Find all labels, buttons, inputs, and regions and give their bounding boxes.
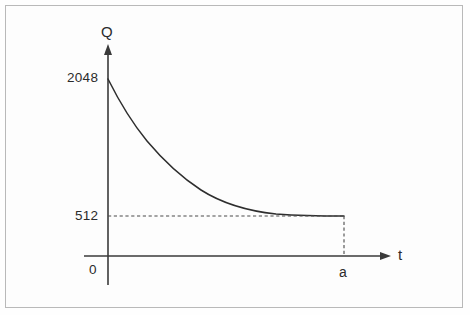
- chart-canvas: [0, 0, 470, 315]
- y-tick-label-2048: 2048: [67, 71, 98, 85]
- y-axis-arrowhead: [104, 44, 112, 55]
- x-axis-label: t: [398, 247, 402, 262]
- x-axis-arrowhead: [380, 252, 391, 260]
- decay-curve: [108, 79, 344, 216]
- origin-label: 0: [89, 263, 97, 277]
- x-tick-label-a: a: [339, 265, 347, 279]
- y-tick-label-512: 512: [75, 209, 98, 223]
- y-axis-label: Q: [101, 24, 113, 39]
- figure-root: Q t 2048 512 0 a: [0, 0, 470, 315]
